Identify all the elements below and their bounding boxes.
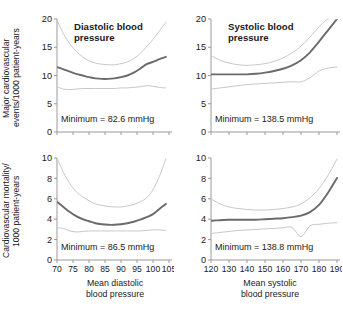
x-axis-label-right-line1: Mean systolic: [243, 278, 296, 288]
panel-title-line1: Diastolic blood: [74, 21, 143, 32]
y-tick-label: 0: [47, 127, 52, 137]
y-axis-label-bottom-line1: Cardiovascular mortality/: [1, 164, 11, 259]
y-axis-label-top: Major cardiovascular events/1000 patient…: [1, 8, 23, 148]
panel-title-line1: Systolic blood: [228, 21, 294, 32]
curve-estimate: [57, 57, 166, 79]
y-tick-label: 5: [201, 99, 206, 109]
x-axis-label-left-line2: blood pressure: [86, 289, 144, 299]
figure-panel-grid: Major cardiovascular events/1000 patient…: [0, 0, 343, 315]
x-tick-label: 85: [100, 264, 110, 274]
panel-bottom-right: 0246810120130140150160170180190Minimum =…: [178, 152, 342, 276]
x-tick-label: 105: [162, 264, 174, 274]
plot-bottom-left: 0246810707580859095100105Minimum = 86.5 …: [24, 152, 174, 276]
y-tick-label: 8: [47, 174, 52, 184]
x-tick-label: 190: [330, 264, 342, 274]
y-tick-label: 6: [47, 194, 52, 204]
curve-confidence-band: [57, 228, 166, 232]
x-tick-label: 170: [294, 264, 309, 274]
x-tick-label: 80: [84, 264, 94, 274]
y-tick-label: 20: [42, 14, 52, 24]
plot-top-left: 05101520Diastolic bloodpressureMinimum =…: [24, 10, 174, 155]
y-tick-label: 4: [47, 214, 52, 224]
panel-top-right: 05101520Systolic bloodpressureMinimum = …: [178, 10, 342, 155]
y-tick-label: 15: [42, 42, 52, 52]
y-axis-label-bottom-line2: 1000 patient-years: [11, 175, 21, 246]
y-tick-label: 0: [201, 127, 206, 137]
y-tick-label: 8: [201, 174, 206, 184]
y-tick-label: 10: [42, 153, 52, 163]
y-axis-label-top-line2: events/1000 patient-years: [11, 29, 21, 128]
x-axis-label-left: Mean diastolic blood pressure: [45, 278, 185, 299]
panel-title-line2: pressure: [74, 32, 115, 43]
x-tick-label: 95: [132, 264, 142, 274]
x-axis-label-left-line1: Mean diastolic: [87, 278, 143, 288]
y-axis-label-bottom: Cardiovascular mortality/ 1000 patient-y…: [1, 156, 23, 266]
x-tick-label: 160: [276, 264, 291, 274]
y-tick-label: 10: [196, 71, 206, 81]
x-tick-label: 75: [68, 264, 78, 274]
plot-bottom-right: 0246810120130140150160170180190Minimum =…: [178, 152, 342, 276]
curve-confidence-band: [211, 223, 337, 237]
x-tick-label: 120: [204, 264, 219, 274]
y-tick-label: 6: [201, 194, 206, 204]
minimum-annotation: Minimum = 86.5 mmHg: [61, 242, 154, 252]
y-tick-label: 2: [201, 235, 206, 245]
x-tick-label: 140: [240, 264, 255, 274]
plot-top-right: 05101520Systolic bloodpressureMinimum = …: [178, 10, 342, 155]
x-tick-label: 90: [116, 264, 126, 274]
curve-estimate: [57, 202, 166, 225]
x-tick-label: 70: [52, 264, 62, 274]
y-tick-label: 4: [201, 214, 206, 224]
y-tick-label: 2: [47, 235, 52, 245]
x-axis-label-right: Mean systolic blood pressure: [199, 278, 341, 299]
y-tick-label: 10: [196, 153, 206, 163]
minimum-annotation: Minimum = 138.5 mmHg: [215, 114, 313, 124]
y-tick-label: 0: [47, 255, 52, 265]
y-tick-label: 15: [196, 42, 206, 52]
curve-estimate: [211, 178, 337, 221]
y-tick-label: 20: [196, 14, 206, 24]
minimum-annotation: Minimum = 138.8 mmHg: [215, 242, 313, 252]
y-tick-label: 5: [47, 99, 52, 109]
panel-top-left: 05101520Diastolic bloodpressureMinimum =…: [24, 10, 174, 155]
minimum-annotation: Minimum = 82.6 mmHg: [61, 114, 154, 124]
x-tick-label: 100: [146, 264, 161, 274]
x-tick-label: 180: [312, 264, 327, 274]
panel-bottom-left: 0246810707580859095100105Minimum = 86.5 …: [24, 152, 174, 276]
curve-confidence-band: [57, 158, 166, 207]
x-tick-label: 150: [258, 264, 273, 274]
panel-title-line2: pressure: [228, 32, 269, 43]
y-tick-label: 10: [42, 71, 52, 81]
x-tick-label: 130: [222, 264, 237, 274]
x-axis-label-right-line2: blood pressure: [241, 289, 299, 299]
curve-confidence-band: [57, 86, 166, 90]
curve-confidence-band: [211, 159, 337, 210]
y-axis-label-top-line1: Major cardiovascular: [1, 38, 11, 117]
